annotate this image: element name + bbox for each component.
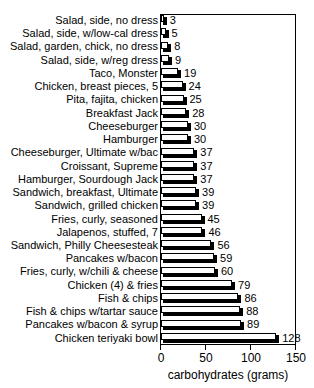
x-axis-tick xyxy=(250,345,251,350)
bar-row: Salad, side, w/low-cal dress5 xyxy=(0,27,314,40)
bar-value-label: 5 xyxy=(172,27,178,40)
bar xyxy=(161,267,215,278)
bar-row: Cheeseburger30 xyxy=(0,120,314,133)
bar-rect xyxy=(161,267,215,274)
bar-row: Chicken, breast pieces, 524 xyxy=(0,80,314,93)
bar-value-label: 60 xyxy=(221,265,233,278)
bar xyxy=(161,227,202,238)
bar-row: Taco, Monster19 xyxy=(0,67,314,80)
bar-value-label: 39 xyxy=(202,199,214,212)
bar-row: Cheeseburger, Ultimate w/bac37 xyxy=(0,146,314,159)
bar-rect xyxy=(161,306,240,313)
bar-row: Fries, curly, w/chili & cheese60 xyxy=(0,265,314,278)
bar-shadow-edge xyxy=(194,150,197,158)
bar-category-label: Chicken (4) & fries xyxy=(68,279,158,292)
bar-rect xyxy=(161,121,188,128)
bar-value-label: 56 xyxy=(217,239,229,252)
bar xyxy=(161,214,202,225)
bar-value-label: 28 xyxy=(192,107,204,120)
bar xyxy=(161,253,214,264)
x-axis-tick-label: 100 xyxy=(241,351,261,365)
bar xyxy=(161,174,194,185)
bar-value-label: 30 xyxy=(194,120,206,133)
bar-category-label: Salad, garden, chick, no dress xyxy=(10,40,158,53)
bar-category-label: Taco, Monster xyxy=(89,67,158,80)
bar-row: Breakfast Jack28 xyxy=(0,107,314,120)
bar-row: Salad, garden, chick, no dress8 xyxy=(0,40,314,53)
bar-shadow-edge xyxy=(166,30,169,38)
bar-row: Sandwich, breakfast, Ultimate39 xyxy=(0,186,314,199)
bar-shadow xyxy=(163,181,196,184)
bar-value-label: 89 xyxy=(247,318,259,331)
bar xyxy=(161,121,188,132)
bar-row: Salad, side, no dress3 xyxy=(0,14,314,27)
bar-category-label: Cheeseburger xyxy=(88,120,158,133)
bar-rect xyxy=(161,161,194,168)
bar-value-label: 39 xyxy=(202,186,214,199)
bar-value-label: 30 xyxy=(194,133,206,146)
bar xyxy=(161,200,196,211)
bar-shadow-edge xyxy=(194,163,197,171)
bar-shadow xyxy=(163,155,196,158)
bar-category-label: Chicken teriyaki bowl xyxy=(55,332,158,345)
bar-row: Fish & chips w/tartar sauce88 xyxy=(0,305,314,318)
bar-rect xyxy=(161,68,178,75)
bar-row: Jalapenos, stuffed, 746 xyxy=(0,226,314,239)
bar-shadow xyxy=(163,234,204,237)
bar xyxy=(161,161,194,172)
bar-shadow-edge xyxy=(169,57,172,65)
bar-shadow-edge xyxy=(211,242,214,250)
bar-shadow-edge xyxy=(202,229,205,237)
bar xyxy=(161,148,194,159)
bar-row: Salad, side, w/reg dress9 xyxy=(0,54,314,67)
bar-value-label: 59 xyxy=(220,252,232,265)
bar-value-label: 24 xyxy=(189,80,201,93)
bar-value-label: 88 xyxy=(246,305,258,318)
bar-value-label: 46 xyxy=(208,226,220,239)
bar-row: Croissant, Supreme37 xyxy=(0,160,314,173)
bar-shadow xyxy=(163,340,278,343)
bar-shadow xyxy=(163,260,216,263)
bar xyxy=(161,134,188,145)
bar xyxy=(161,293,238,304)
bar-row: Fish & chips86 xyxy=(0,292,314,305)
bar-shadow-edge xyxy=(240,308,243,316)
bar-rect xyxy=(161,200,196,207)
bar-category-label: Sandwich, breakfast, Ultimate xyxy=(12,186,158,199)
bar xyxy=(161,28,166,39)
bar-value-label: 86 xyxy=(244,292,256,305)
bar-shadow xyxy=(163,327,243,330)
bar-shadow xyxy=(163,168,196,171)
bar-shadow xyxy=(163,274,217,277)
bar-category-label: Fish & chips w/tartar sauce xyxy=(26,305,158,318)
bar-rect xyxy=(161,240,211,247)
bar-category-label: Salad, side, w/low-cal dress xyxy=(22,27,158,40)
x-axis-tick-label: 50 xyxy=(199,351,212,365)
bar-value-label: 37 xyxy=(200,160,212,173)
bar-shadow-edge xyxy=(214,255,217,263)
bar-rows: Salad, side, no dress3Salad, side, w/low… xyxy=(0,14,314,345)
bar-category-label: Sandwich, grilled chicken xyxy=(34,199,158,212)
bar-shadow xyxy=(163,247,213,250)
bar-rect xyxy=(161,214,202,221)
bar xyxy=(161,42,168,53)
bar-shadow xyxy=(163,207,198,210)
x-axis-title: carbohydrates (grams) xyxy=(160,368,296,382)
bar-category-label: Cheeseburger, Ultimate w/bac xyxy=(11,146,158,159)
bar-category-label: Breakfast Jack xyxy=(86,107,158,120)
bar xyxy=(161,55,169,66)
bar-shadow-edge xyxy=(188,136,191,144)
chart-title-clipped xyxy=(0,0,314,9)
bar xyxy=(161,187,196,198)
bar-rect xyxy=(161,108,186,115)
bar-rect xyxy=(161,134,188,141)
bar-rect xyxy=(161,253,214,260)
bar-shadow-edge xyxy=(215,269,218,277)
bar-category-label: Salad, side, w/reg dress xyxy=(41,54,158,67)
bar-shadow xyxy=(163,88,185,91)
bar-category-label: Jalapenos, stuffed, 7 xyxy=(57,226,158,239)
bar-value-label: 45 xyxy=(208,213,220,226)
bar-rect xyxy=(161,55,169,62)
bar xyxy=(161,333,276,344)
bar-shadow-edge xyxy=(184,97,187,105)
